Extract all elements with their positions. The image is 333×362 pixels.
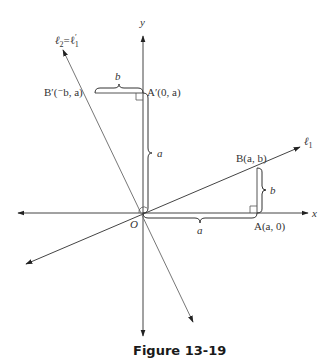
brace-b-top-label: b [115, 70, 121, 82]
point-b-label: B(a, b) [236, 152, 267, 165]
right-angle-a [250, 206, 257, 213]
figure-13-19: y x O ℓ1 ℓ2=ℓ′1 B(a, b) A(a, 0) A′(0, a)… [0, 0, 333, 362]
brace-b-right [257, 168, 266, 213]
y-axis-label: y [139, 16, 145, 28]
figure-caption: Figure 13-19 [133, 343, 226, 358]
line-l2-label: ℓ2=ℓ′1 [55, 33, 79, 49]
line-l1-label: ℓ1 [304, 135, 313, 150]
point-bprime-label: B′(⁻b, a) [44, 86, 83, 99]
right-angle-aprime [136, 93, 143, 100]
brace-b-top [95, 84, 143, 93]
origin-label: O [130, 218, 138, 230]
x-axis-label: x [311, 207, 317, 219]
brace-a-vertical-label: a [157, 147, 163, 159]
brace-a-horizontal [143, 213, 257, 223]
point-aprime-label: A′(0, a) [147, 86, 181, 99]
brace-a-vertical [143, 93, 152, 213]
point-a-label: A(a, 0) [254, 220, 285, 233]
brace-a-horizontal-label: a [197, 224, 203, 236]
brace-b-right-label: b [270, 184, 276, 196]
line-l1 [26, 147, 300, 264]
